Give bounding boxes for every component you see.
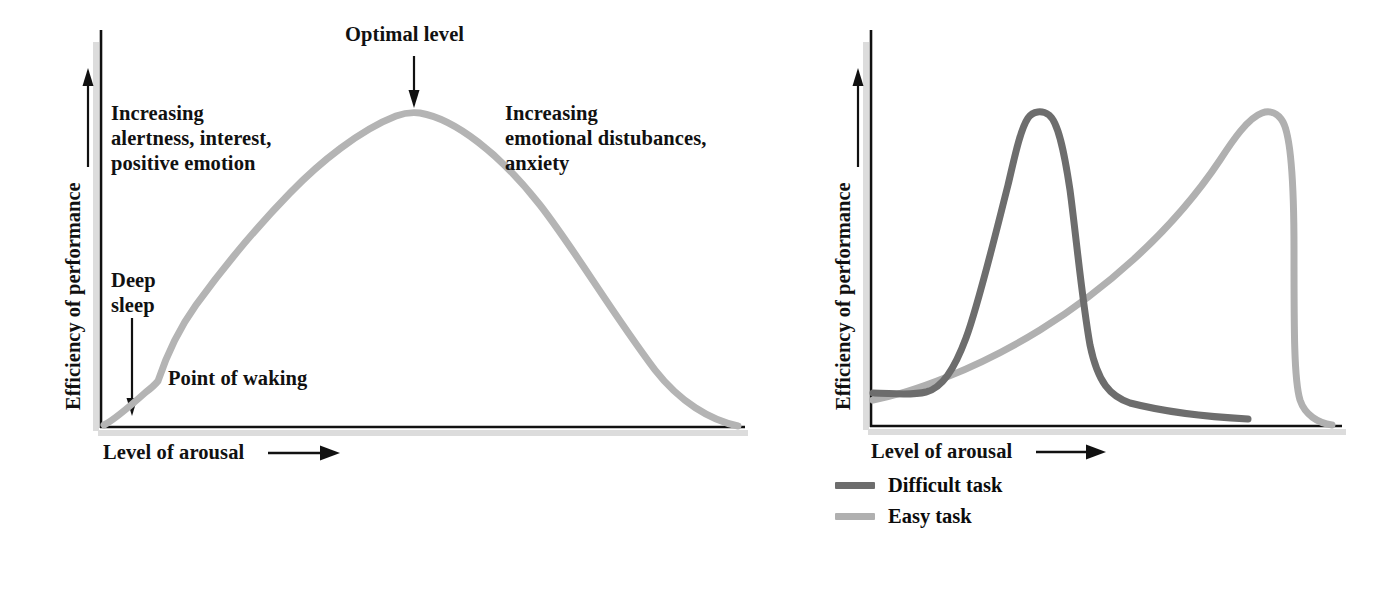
panel-b-caption: (b) Relationship between performance and…	[834, 563, 1208, 616]
panel-b-x-axis-label: Level of arousal	[871, 439, 1012, 464]
annotation-line: alertness, interest,	[111, 126, 271, 151]
annotation-line: positive emotion	[111, 151, 271, 176]
x-axis-direction-arrow-icon	[268, 446, 340, 461]
annotation-point-of-waking: Point of waking	[168, 366, 307, 391]
panel-a-caption: (a) General relationship between perform…	[68, 563, 364, 616]
annotation-line: Increasing	[505, 101, 707, 126]
panel-a-x-axis-label: Level of arousal	[103, 440, 244, 465]
difficult-task-curve	[873, 112, 1248, 419]
panel-b-difficult-vs-easy: Efficiency of performance Level of arous…	[770, 0, 1378, 616]
annotation-increasing-alertness: Increasing alertness, interest, positive…	[111, 101, 271, 176]
y-axis-direction-arrow-icon	[83, 68, 94, 167]
y-axis-direction-arrow-icon	[853, 68, 864, 167]
annotation-line: Deep	[111, 268, 156, 293]
annotation-line: Increasing	[111, 101, 271, 126]
legend-swatch-easy-task	[835, 513, 875, 520]
x-axis-direction-arrow-icon	[1036, 445, 1106, 460]
legend-label-difficult-task: Difficult task	[888, 474, 1002, 497]
annotation-increasing-emotional-disturbances: Increasing emotional distubances, anxiet…	[505, 101, 707, 176]
optimal-level-arrow-icon	[409, 56, 420, 108]
legend-item-easy-task[interactable]: Easy task	[835, 505, 972, 528]
legend-item-difficult-task[interactable]: Difficult task	[835, 474, 1002, 497]
annotation-line: emotional distubances,	[505, 126, 707, 151]
legend-label-easy-task: Easy task	[888, 505, 972, 528]
panel-a-general-relationship: Efficiency of performance Level of arous…	[0, 0, 770, 616]
panel-b-y-axis-label: Efficiency of performance	[832, 182, 855, 410]
legend-swatch-difficult-task	[835, 482, 875, 489]
panel-a-y-axis-label: Efficiency of performance	[62, 182, 85, 410]
annotation-line: sleep	[111, 293, 156, 318]
annotation-line: anxiety	[505, 151, 707, 176]
annotation-optimal-level: Optimal level	[345, 22, 464, 47]
annotation-deep-sleep: Deep sleep	[111, 268, 156, 318]
